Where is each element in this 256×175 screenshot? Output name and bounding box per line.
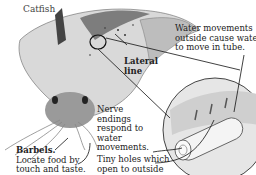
fish-head <box>45 92 95 128</box>
fish-eye-left <box>52 96 58 104</box>
label-tiny-holes: Tiny holes which open to outside <box>97 155 169 174</box>
label-water-movements: Water movements outside cause water to m… <box>175 24 256 53</box>
label-barbels: Barbels. Locate food by touch and taste. <box>16 146 86 175</box>
label-lateral-line: Lateral line <box>124 57 158 76</box>
title-catfish: Catfish <box>23 5 55 15</box>
fish-eye-right <box>82 96 88 104</box>
label-nerve-endings: Nerve endings respond to water movements… <box>97 105 149 153</box>
